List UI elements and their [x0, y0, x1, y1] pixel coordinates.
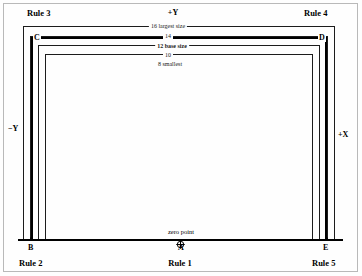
axis-label-right-plus-x: +X: [338, 130, 348, 139]
corner-label-e: E: [323, 243, 328, 252]
size-label-12-base: 12 base size: [155, 43, 189, 50]
rule-label-5: Rule 5: [312, 258, 335, 268]
rule-label-4: Rule 4: [304, 8, 327, 18]
axis-label-left-minus-y: −Y: [8, 124, 18, 133]
size-frame-8: [45, 54, 313, 240]
axis-label-top-plus-y: +Y: [168, 8, 178, 17]
size-label-16: 16 largest size: [149, 23, 187, 30]
diagram-canvas: 16 largest size 14 12 base size 10 8 sma…: [0, 0, 362, 276]
size-label-14: 14: [163, 33, 173, 40]
rule-label-2: Rule 2: [19, 258, 42, 268]
corner-label-d: D: [318, 33, 326, 42]
corner-dot-e: [325, 237, 328, 240]
rule-label-1: Rule 1: [168, 258, 191, 268]
size-label-8: 8 smallest: [156, 61, 184, 68]
crosshair-circle-icon: [176, 235, 185, 244]
corner-label-b: B: [28, 243, 33, 252]
size-label-10: 10: [163, 52, 173, 59]
corner-label-c: C: [33, 33, 41, 42]
rule-label-3: Rule 3: [27, 8, 50, 18]
corner-dot-b: [30, 237, 33, 240]
